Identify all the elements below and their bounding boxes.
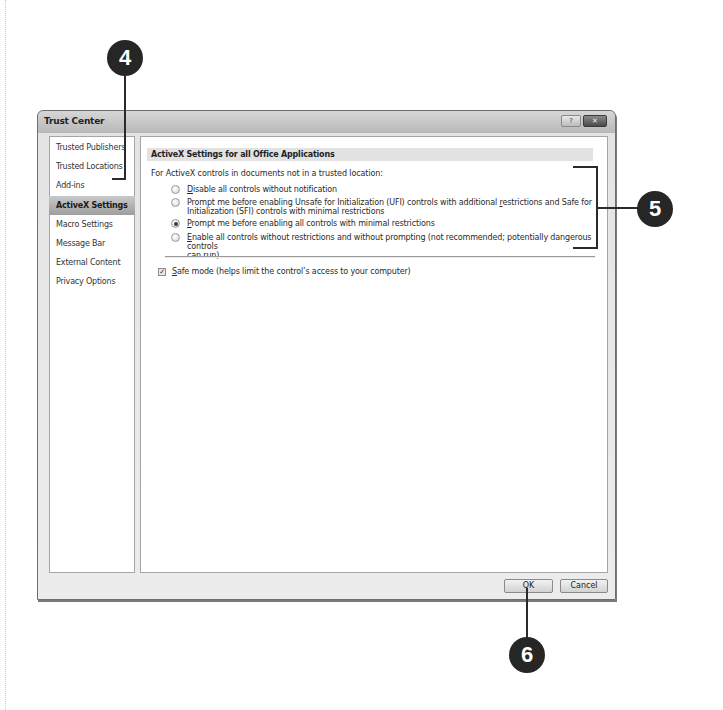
intro-label: For ActiveX controls in documents not in… [151,169,383,178]
callout-4-leader-tick [112,178,126,180]
option-label: Disable all controls without notificatio… [187,185,337,194]
sidebar-item-privacy-options[interactable]: Privacy Options [50,272,134,291]
close-button[interactable]: ✕ [583,115,607,127]
page-edge-divider [5,0,6,710]
callout-6-leader [526,588,528,640]
callout-5-bracket-top [573,166,598,168]
separator [165,256,595,258]
content-panel: ActiveX Settings for all Office Applicat… [140,136,608,573]
sidebar-item-message-bar[interactable]: Message Bar [50,234,134,253]
radio-button-selected[interactable] [171,219,180,228]
callout-5-badge: 5 [637,191,673,227]
sidebar-item-activex-settings[interactable]: ActiveX Settings [49,196,135,215]
dialog-title: Trust Center [44,116,104,126]
radio-button[interactable] [171,233,180,242]
safe-mode-option[interactable]: ✓ Safe mode (helps limit the control’s a… [158,267,411,276]
help-button[interactable]: ? [561,115,581,127]
sidebar: Trusted Publishers Trusted Locations Add… [49,136,135,573]
cancel-button[interactable]: Cancel [560,579,608,593]
sidebar-item-macro-settings[interactable]: Macro Settings [50,215,134,234]
option-label: Prompt me before enabling all controls w… [187,219,435,228]
callout-4-leader [124,76,126,180]
sidebar-item-external-content[interactable]: External Content [50,253,134,272]
radio-button[interactable] [171,185,180,194]
safe-mode-checkbox[interactable]: ✓ [158,268,166,276]
option-prompt-all[interactable]: Prompt me before enabling all controls w… [171,219,596,228]
option-label: Prompt me before enabling Unsafe for Ini… [187,198,592,216]
option-prompt-ufi-sfi[interactable]: Prompt me before enabling Unsafe for Ini… [171,198,596,216]
trust-center-dialog: Trust Center ? ✕ Trusted Publishers Trus… [37,110,616,600]
ok-button[interactable]: OK [504,579,553,593]
sidebar-item-trusted-locations[interactable]: Trusted Locations [50,157,134,176]
callout-5-bracket-bottom [573,247,598,249]
section-header: ActiveX Settings for all Office Applicat… [147,148,593,161]
safe-mode-label: Safe mode (helps limit the control’s acc… [172,267,411,276]
radio-button[interactable] [171,198,180,207]
option-disable-all[interactable]: Disable all controls without notificatio… [171,185,596,194]
callout-4-badge: 4 [107,40,143,76]
callout-6-badge: 6 [509,637,545,673]
sidebar-item-trusted-publishers[interactable]: Trusted Publishers [50,138,134,157]
callout-5-leader [597,207,639,209]
window-buttons: ? ✕ [561,115,607,127]
